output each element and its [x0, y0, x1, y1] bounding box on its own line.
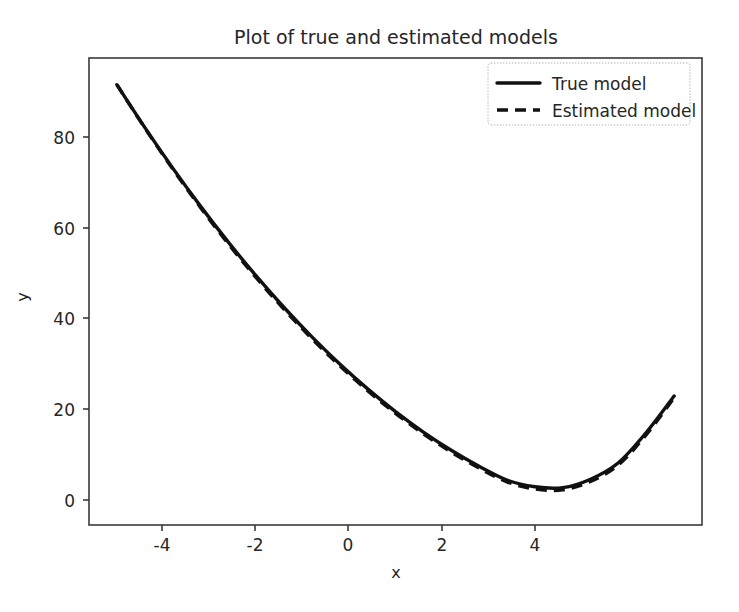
y-tick-label-60: 60 [53, 219, 75, 239]
y-axis-label: y [13, 292, 32, 301]
x-tick-label-0: 0 [343, 535, 354, 555]
chart-legend: True model Estimated model [488, 63, 696, 125]
x-axis-label: x [391, 563, 400, 582]
x-tick-label-2: 2 [437, 535, 448, 555]
matplotlib-figure: Plot of true and estimated models 0 20 4… [0, 0, 739, 612]
axes-frame [89, 58, 702, 525]
chart-canvas: Plot of true and estimated models 0 20 4… [0, 0, 739, 612]
y-tick-label-80: 80 [53, 128, 75, 148]
x-axis-ticks [162, 525, 535, 531]
y-tick-label-20: 20 [53, 400, 75, 420]
legend-label-estimated-model: Estimated model [552, 101, 696, 121]
chart-title: Plot of true and estimated models [234, 26, 558, 48]
x-tick-label-4: 4 [530, 535, 541, 555]
y-tick-label-0: 0 [64, 491, 75, 511]
series-line-estimated-model [117, 85, 674, 491]
legend-label-true-model: True model [551, 74, 646, 94]
x-tick-label-minus4: -4 [154, 535, 171, 555]
x-tick-label-minus2: -2 [247, 535, 264, 555]
series-line-true-model [117, 85, 674, 489]
y-axis-ticks [83, 137, 89, 500]
y-tick-label-40: 40 [53, 309, 75, 329]
